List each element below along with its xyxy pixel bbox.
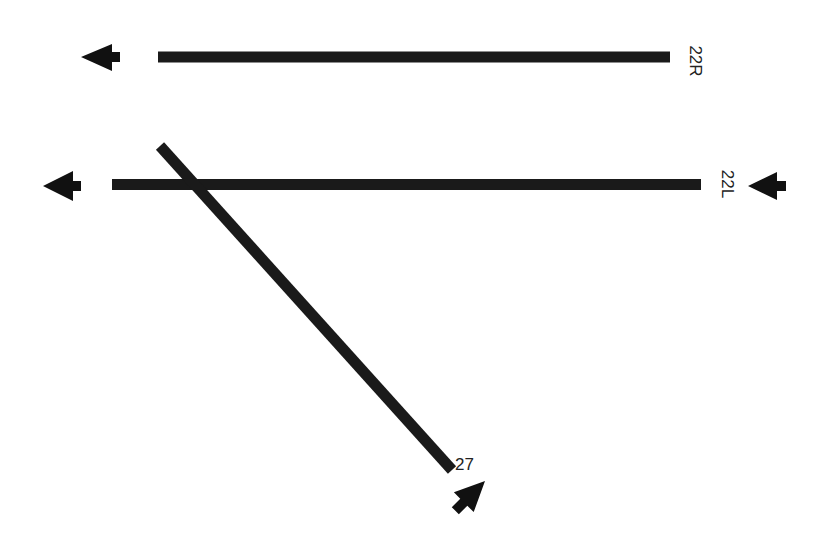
runway-22r: 22R — [158, 45, 705, 76]
runway-22l-label: 22L — [718, 170, 737, 198]
runway-27-strip — [160, 146, 452, 470]
runway-22r-label: 22R — [686, 45, 705, 76]
arrow-left-icon — [43, 171, 81, 201]
runway-diagram: 22R 22L 27 — [0, 0, 820, 536]
runway-27: 27 — [160, 146, 474, 474]
arrow-left-icon — [81, 44, 120, 71]
arrow-up-left-icon — [445, 471, 494, 520]
arrow-left-icon — [748, 172, 786, 200]
runway-27-label: 27 — [455, 455, 474, 474]
